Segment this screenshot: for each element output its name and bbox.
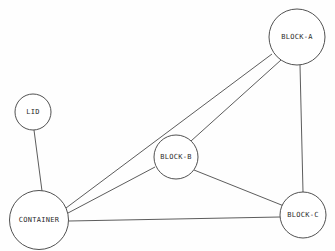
node-block_c[interactable]: BLOCK-C [280, 192, 326, 238]
edge-block_a-to-block_c [300, 65, 303, 192]
node-label-block_b: BLOCK-B [160, 153, 192, 161]
node-block_a[interactable]: BLOCK-A [269, 9, 325, 65]
node-lid[interactable]: LID [15, 94, 51, 130]
node-label-container: CONTAINER [19, 216, 60, 224]
diagram-canvas-container: LIDCONTAINERBLOCK-BBLOCK-ABLOCK-C [0, 0, 335, 251]
node-label-block_a: BLOCK-A [281, 33, 313, 41]
edge-block_b-to-block_a [191, 60, 281, 141]
node-label-block_c: BLOCK-C [287, 211, 319, 219]
node-link-diagram: LIDCONTAINERBLOCK-BBLOCK-ABLOCK-C [0, 0, 335, 251]
nodes-layer: LIDCONTAINERBLOCK-BBLOCK-ABLOCK-C [10, 9, 327, 250]
edge-container-to-block_c [69, 217, 280, 221]
node-block_b[interactable]: BLOCK-B [154, 135, 198, 179]
node-label-lid: LID [26, 108, 40, 116]
edge-block_b-to-block_c [194, 170, 284, 206]
edge-lid-to-container [34, 130, 42, 191]
node-container[interactable]: CONTAINER [10, 191, 69, 250]
edge-container-to-block_a [66, 54, 272, 208]
